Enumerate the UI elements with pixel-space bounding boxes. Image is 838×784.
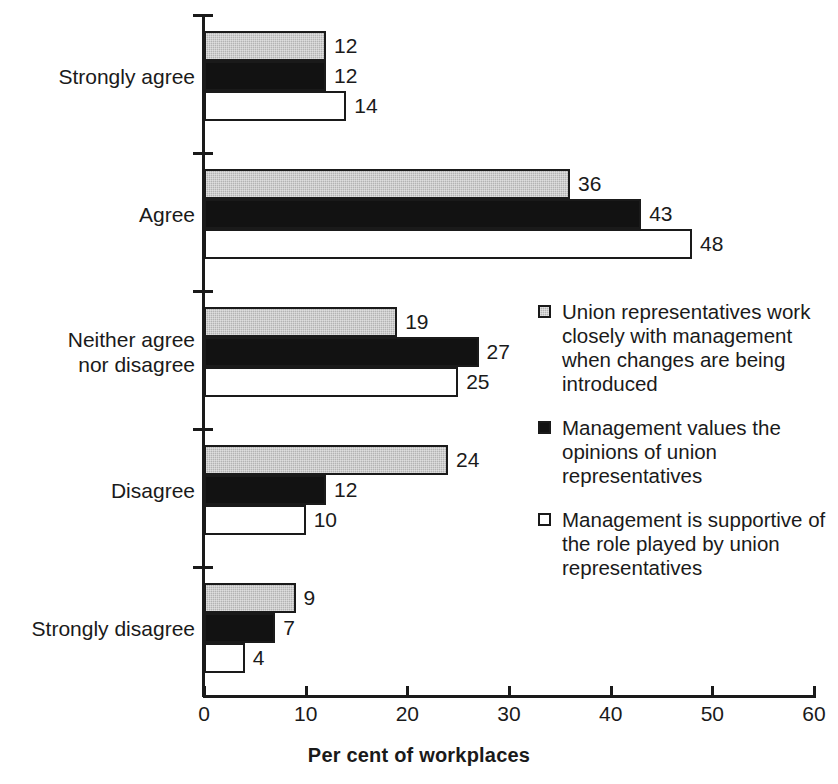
bar-value-label: 48 <box>700 229 723 259</box>
bar-value-label: 36 <box>578 169 601 199</box>
x-axis-title: Per cent of workplaces <box>0 744 838 767</box>
bar <box>204 61 326 91</box>
bar-value-label: 7 <box>283 613 295 643</box>
x-axis-tick-label: 0 <box>198 702 210 726</box>
bar-value-label: 10 <box>314 505 337 535</box>
bar <box>204 475 326 505</box>
x-axis-tick <box>406 686 409 698</box>
bar <box>204 169 570 199</box>
x-axis-tick <box>203 686 206 698</box>
bar <box>204 505 306 535</box>
bar-value-label: 19 <box>405 307 428 337</box>
bar <box>204 613 275 643</box>
legend-label: Union representatives work closely with … <box>562 300 810 395</box>
bar <box>204 337 479 367</box>
bar-value-label: 4 <box>253 643 265 673</box>
y-axis-tick <box>193 428 213 431</box>
legend-item[interactable]: Union representatives work closely with … <box>538 300 838 396</box>
x-axis-tick <box>508 686 511 698</box>
bar <box>204 91 346 121</box>
bar-value-label: 12 <box>334 61 357 91</box>
bar-value-label: 25 <box>466 367 489 397</box>
x-axis-tick-label: 30 <box>497 702 520 726</box>
bar <box>204 31 326 61</box>
category-label: Strongly agree <box>58 64 195 89</box>
bar-value-label: 24 <box>456 445 479 475</box>
x-axis-tick <box>711 686 714 698</box>
y-axis-tick <box>193 14 213 17</box>
legend-label: Management is supportive of the role pla… <box>562 508 825 579</box>
black-swatch <box>538 421 551 434</box>
bar <box>204 307 397 337</box>
x-axis-tick <box>813 686 816 698</box>
bar <box>204 583 296 613</box>
legend-item[interactable]: Management values the opinions of union … <box>538 416 838 488</box>
x-axis-tick-label: 50 <box>701 702 724 726</box>
y-axis-tick <box>193 152 213 155</box>
category-label: Disagree <box>111 478 195 503</box>
bar-value-label: 14 <box>354 91 377 121</box>
x-axis-tick-label: 10 <box>294 702 317 726</box>
x-axis-tick <box>610 686 613 698</box>
bar <box>204 445 448 475</box>
category-label: Strongly disagree <box>32 616 195 641</box>
bar-value-label: 43 <box>649 199 672 229</box>
bar-value-label: 12 <box>334 31 357 61</box>
legend-item[interactable]: Management is supportive of the role pla… <box>538 508 838 580</box>
bar-chart: 0102030405060 Strongly agreeAgreeNeither… <box>0 0 838 784</box>
bar-value-label: 12 <box>334 475 357 505</box>
chart-legend: Union representatives work closely with … <box>538 300 838 600</box>
x-axis-tick-label: 20 <box>396 702 419 726</box>
y-axis-tick <box>193 566 213 569</box>
category-label: Neither agree nor disagree <box>68 327 195 377</box>
x-axis-tick-label: 60 <box>802 702 825 726</box>
white-swatch <box>538 513 551 526</box>
bar-value-label: 9 <box>304 583 316 613</box>
y-axis-tick <box>193 290 213 293</box>
gray-swatch <box>538 305 551 318</box>
x-axis-tick <box>305 686 308 698</box>
category-label: Agree <box>139 202 195 227</box>
bar <box>204 199 641 229</box>
bar <box>204 643 245 673</box>
bar <box>204 367 458 397</box>
x-axis-tick-label: 40 <box>599 702 622 726</box>
bar-value-label: 27 <box>487 337 510 367</box>
legend-label: Management values the opinions of union … <box>562 416 781 487</box>
bar <box>204 229 692 259</box>
